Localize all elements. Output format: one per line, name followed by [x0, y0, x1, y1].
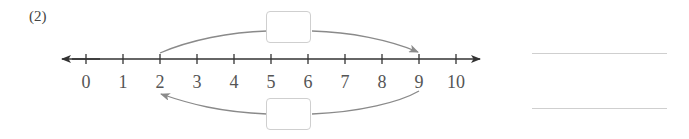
jump-arc-upper-left: [160, 31, 267, 53]
jump-answer-box-lower[interactable]: [266, 98, 311, 130]
answer-line-2[interactable]: [532, 108, 667, 109]
tick-label-6: 6: [304, 72, 313, 92]
tick-label-5: 5: [267, 72, 276, 92]
jump-answer-box-upper[interactable]: [266, 11, 311, 43]
number-line: 0 1 2 3 4 5 6 7 8 9 10: [0, 0, 689, 139]
tick-label-3: 3: [193, 72, 202, 92]
tick-label-0: 0: [82, 72, 91, 92]
answer-line-1[interactable]: [532, 53, 667, 54]
tick-label-9: 9: [415, 72, 424, 92]
tick-label-7: 7: [341, 72, 350, 92]
tick-label-10: 10: [447, 72, 465, 92]
jump-arc-lower-left: [161, 94, 267, 114]
tick-label-8: 8: [378, 72, 387, 92]
tick-label-2: 2: [156, 72, 165, 92]
jump-arc-lower-right: [312, 91, 419, 114]
jump-arc-upper-right: [312, 31, 418, 52]
tick-label-4: 4: [230, 72, 239, 92]
tick-label-1: 1: [119, 72, 128, 92]
